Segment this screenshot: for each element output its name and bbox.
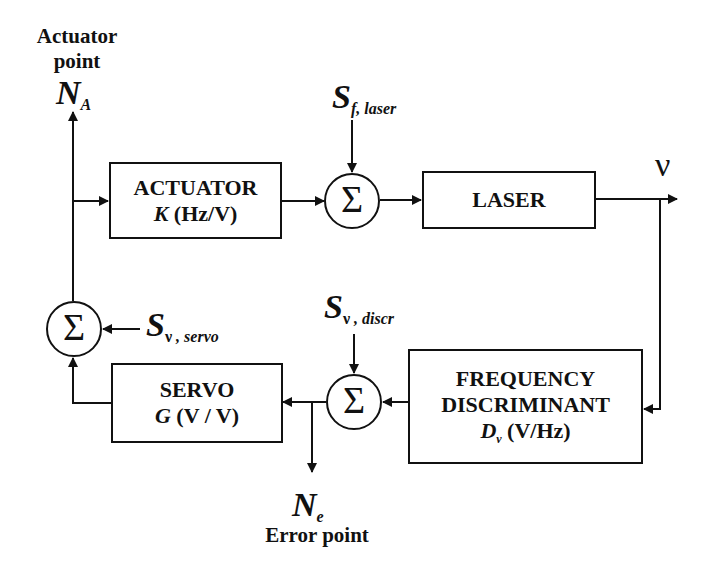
- servo-summing-junction: Σ: [46, 301, 102, 357]
- laser-title: LASER: [472, 187, 545, 213]
- actuator-point-caption: Actuator point: [22, 24, 132, 74]
- laser-noise-label: Sf, laser: [332, 78, 396, 116]
- output-frequency-symbol: ν: [655, 146, 670, 184]
- actuator-point-line2: point: [22, 49, 132, 74]
- sigma-icon: Σ: [341, 180, 363, 218]
- servo-block: SERVO G (V / V): [111, 363, 283, 443]
- actuator-gain: K (Hz/V): [154, 201, 238, 227]
- actuator-block: ACTUATOR K (Hz/V): [109, 162, 282, 239]
- discriminant-line2: DISCRIMINANT: [441, 392, 610, 418]
- discriminant-gain: Dν (V/Hz): [480, 418, 570, 447]
- discriminant-line1: FREQUENCY: [456, 366, 595, 392]
- error-point-symbol: Ne: [292, 486, 324, 524]
- discriminator-noise-label: Sν , discr: [324, 288, 394, 326]
- sigma-icon: Σ: [343, 381, 365, 419]
- servo-noise-label: Sν , servo: [146, 306, 219, 344]
- laser-block: LASER: [422, 171, 596, 229]
- actuator-title: ACTUATOR: [134, 175, 258, 201]
- servo-gain: G (V / V): [155, 403, 239, 429]
- frequency-discriminant-block: FREQUENCY DISCRIMINANT Dν (V/Hz): [408, 349, 643, 464]
- discriminator-summing-junction: Σ: [326, 374, 382, 430]
- servo-title: SERVO: [160, 377, 235, 403]
- sigma-icon: Σ: [63, 308, 85, 346]
- actuator-point-symbol: NA: [56, 74, 91, 112]
- laser-summing-junction: Σ: [324, 173, 380, 229]
- wire-feedback-to-discriminant: [644, 199, 660, 409]
- error-point-caption: Error point: [252, 523, 382, 548]
- wire-servo-to-sum: [73, 358, 111, 403]
- actuator-point-line1: Actuator: [22, 24, 132, 49]
